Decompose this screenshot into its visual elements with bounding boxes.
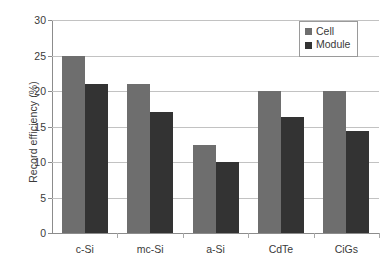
x-axis-label-c-si: c-Si [76, 243, 94, 255]
x-axis-separator-4 [314, 233, 315, 238]
x-axis-separator-end [379, 233, 380, 238]
x-axis-label-cigs: CiGs [335, 243, 358, 255]
y-tick-mark-15 [48, 127, 52, 128]
y-tick-mark-25 [48, 56, 52, 57]
y-tick-label-25: 25 [34, 50, 46, 62]
y-tick-label-10: 10 [34, 156, 46, 168]
legend-label-module: Module [316, 38, 350, 51]
bar-a-si-module [216, 162, 239, 233]
x-axis-label-a-si: a-Si [206, 243, 225, 255]
x-axis-label-mc-si: mc-Si [137, 243, 164, 255]
legend-label-cell: Cell [316, 25, 334, 38]
bar-a-si-cell [193, 145, 216, 233]
y-tick-mark-0 [48, 233, 52, 234]
bar-cdte-cell [258, 91, 281, 233]
y-tick-mark-5 [48, 198, 52, 199]
bar-cigs-module [346, 131, 369, 233]
gridline-0 [52, 233, 379, 234]
bar-cdte-module [281, 117, 304, 233]
bar-chart-figure: Record efficiency (%) 051015202530 c-Sim… [0, 0, 390, 267]
x-axis-separator-1 [117, 233, 118, 238]
legend-swatch-cell-icon [305, 28, 312, 35]
legend-item-module: Module [305, 38, 350, 51]
bar-mc-si-module [150, 112, 173, 233]
bar-c-si-cell [62, 56, 85, 234]
y-tick-label-15: 15 [34, 121, 46, 133]
chart-legend: CellModule [299, 21, 358, 57]
legend-swatch-module-icon [305, 42, 312, 49]
bar-c-si-module [85, 84, 108, 233]
bar-cigs-cell [323, 91, 346, 233]
y-tick-mark-10 [48, 162, 52, 163]
y-tick-label-5: 5 [40, 192, 46, 204]
y-tick-label-30: 30 [34, 14, 46, 26]
x-axis-separator-2 [183, 233, 184, 238]
y-tick-mark-30 [48, 20, 52, 21]
y-tick-label-20: 20 [34, 85, 46, 97]
x-axis-label-cdte: CdTe [269, 243, 294, 255]
y-tick-label-0: 0 [40, 227, 46, 239]
y-tick-mark-20 [48, 91, 52, 92]
legend-item-cell: Cell [305, 25, 350, 38]
x-axis-separator-3 [248, 233, 249, 238]
bar-mc-si-cell [127, 84, 150, 233]
